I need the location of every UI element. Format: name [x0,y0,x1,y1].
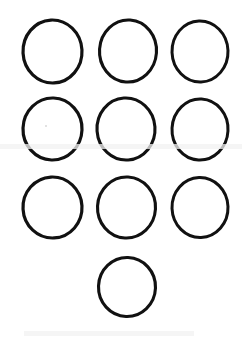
circle-r3-c3 [171,177,229,239]
circles-group [0,0,242,343]
circle-row-row-1 [21,18,229,84]
circle-r1-c1 [21,18,83,84]
circle-r2-c1 [22,97,83,161]
circle-row-row-3 [21,175,229,239]
circle-r3-c2 [96,176,157,240]
circle-r2-c2 [95,96,157,162]
circle-r2-c3 [170,98,229,162]
circle-r3-c1 [21,175,83,239]
circle-r1-c2 [97,18,158,84]
circle-row-row-2 [22,96,230,162]
circle-r1-c3 [171,20,229,83]
figure-canvas [0,0,242,343]
circle-row-row-4 [97,257,156,318]
circle-r4-c1 [97,257,156,318]
